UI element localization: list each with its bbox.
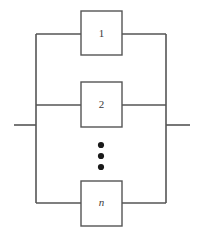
ellipsis-dot-1: [98, 142, 104, 148]
block-2-label: 2: [99, 98, 105, 110]
diagram-canvas: 1 2 n: [0, 0, 202, 235]
ellipsis-dot-2: [98, 153, 104, 159]
block-n: n: [81, 181, 122, 226]
vertical-ellipsis-icon: [98, 142, 104, 170]
ellipsis-dot-3: [98, 164, 104, 170]
block-1: 1: [81, 11, 122, 55]
parallel-block-diagram: 1 2 n: [0, 0, 202, 235]
block-1-label: 1: [99, 27, 105, 39]
block-n-label: n: [99, 196, 105, 208]
block-2: 2: [81, 82, 122, 127]
